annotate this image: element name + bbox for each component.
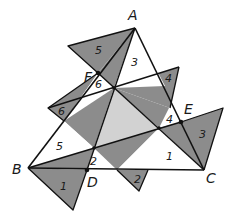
region-label-4-mid: 4 [166,113,173,126]
region-label-3-top: 3 [131,56,138,69]
region-label-5-top: 5 [95,44,102,57]
vertex-label-e: E [184,101,193,117]
point-e-dot [179,120,184,125]
region-label-2-mid: 2 [90,155,97,168]
vertex-label-b: B [12,161,22,177]
region-label-4-top: 4 [165,72,172,85]
point-f-dot [96,71,101,76]
geometry-diagram: A B C D E F 5 3 6 4 6 4 3 5 2 1 1 2 [0,0,238,224]
region-label-3-right: 3 [199,128,206,141]
center-left-dot [92,146,96,150]
vertex-label-d: D [87,174,98,190]
region-label-6-left: 6 [58,105,65,118]
region-label-6-mid: 6 [95,78,102,91]
shaded-triangle-1 [28,168,87,210]
center-top-dot [112,86,116,90]
point-d-dot [85,168,90,173]
region-label-5-left: 5 [56,140,63,153]
center-right-dot [157,126,161,130]
vertex-label-c: C [206,170,216,186]
vertex-label-a: A [127,7,138,23]
vertex-label-f: F [84,69,93,85]
region-label-1-bottom: 1 [60,180,67,193]
region-label-1-right: 1 [166,150,173,163]
region-label-2-bottom: 2 [134,173,141,186]
